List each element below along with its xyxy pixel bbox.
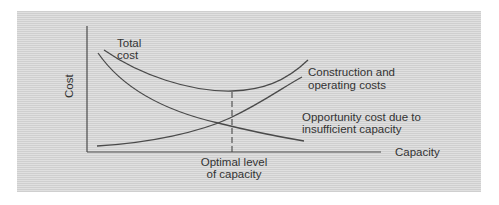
capacity-cost-diagram: Cost Total cost Construction and operati… — [0, 0, 499, 205]
construction-cost-label-1: Construction and — [308, 66, 395, 78]
x-axis-label: Capacity — [395, 146, 440, 158]
y-axis-label: Cost — [63, 74, 75, 98]
optimal-label-2: of capacity — [207, 168, 262, 180]
optimal-label-1: Optimal level — [201, 156, 267, 168]
total-cost-label-2: cost — [117, 49, 139, 61]
opportunity-cost-curve — [98, 53, 304, 141]
total-cost-label-1: Total — [117, 37, 141, 49]
opportunity-cost-label-1: Opportunity cost due to — [302, 111, 421, 123]
construction-cost-label-2: operating costs — [308, 79, 386, 91]
opportunity-cost-label-2: insufficient capacity — [302, 123, 402, 135]
